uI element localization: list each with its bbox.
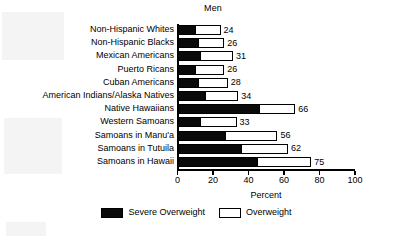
x-axis-tick-label: 80 xyxy=(305,175,335,186)
chart-legend: Severe OverweightOverweight xyxy=(0,207,393,218)
bar-value-label: 26 xyxy=(227,38,237,49)
x-axis-tick-label: 60 xyxy=(269,175,299,186)
bar-segment-severe-overweight xyxy=(178,104,260,114)
bar-value-label: 56 xyxy=(280,130,290,141)
category-label: Samoans in Tutuila xyxy=(97,143,174,154)
x-axis-tick xyxy=(248,171,249,175)
x-axis-tick xyxy=(354,171,355,175)
bar-segment-severe-overweight xyxy=(178,38,199,48)
bar-value-label: 33 xyxy=(240,117,250,128)
bar-row: Non-Hispanic Whites24 xyxy=(0,24,393,37)
bar-row: American Indians/Alaska Natives34 xyxy=(0,90,393,103)
category-label: Samoans in Hawaii xyxy=(97,156,174,167)
bar-value-label: 75 xyxy=(314,157,324,168)
bar-segment-severe-overweight xyxy=(178,131,226,141)
category-label: Samoans in Manu'a xyxy=(95,130,174,141)
category-label: Puerto Ricans xyxy=(117,64,174,75)
bar-row: Samoans in Hawaii75 xyxy=(0,156,393,169)
category-label: Native Hawaiians xyxy=(104,103,174,114)
x-axis-tick-label: 100 xyxy=(340,175,370,186)
category-label: Western Samoans xyxy=(100,116,174,127)
bar-segment-severe-overweight xyxy=(178,144,242,154)
legend-item: Overweight xyxy=(219,207,292,218)
bar-value-label: 66 xyxy=(298,104,308,115)
legend-item: Severe Overweight xyxy=(101,207,205,218)
x-axis-tick xyxy=(212,171,213,175)
bar-row: Puerto Ricans26 xyxy=(0,64,393,77)
x-axis-tick xyxy=(283,171,284,175)
category-label: Cuban Americans xyxy=(103,77,174,88)
bar-segment-severe-overweight xyxy=(178,91,206,101)
bar-row: Mexican Americans31 xyxy=(0,50,393,63)
legend-label: Overweight xyxy=(246,207,292,218)
legend-label: Severe Overweight xyxy=(128,207,205,218)
bar-value-label: 26 xyxy=(227,64,237,75)
bar-segment-severe-overweight xyxy=(178,25,196,35)
x-axis-tick-label: 40 xyxy=(234,175,264,186)
x-axis-tick-label: 0 xyxy=(163,175,193,186)
category-label: Non-Hispanic Whites xyxy=(90,24,174,35)
legend-swatch-filled xyxy=(101,208,123,218)
bar-row: Native Hawaiians66 xyxy=(0,103,393,116)
bar-value-label: 31 xyxy=(236,51,246,62)
bar-row: Western Samoans33 xyxy=(0,116,393,129)
x-axis-title: Percent xyxy=(177,190,355,201)
x-axis-tick xyxy=(177,171,178,175)
bar-value-label: 24 xyxy=(224,25,234,36)
x-axis-line xyxy=(177,169,355,171)
bar-segment-severe-overweight xyxy=(178,51,201,61)
x-axis-tick-label: 20 xyxy=(198,175,228,186)
bar-row: Samoans in Tutuila62 xyxy=(0,143,393,156)
chart-figure: Men 020406080100 Percent Severe Overweig… xyxy=(0,0,393,240)
bar-segment-severe-overweight xyxy=(178,157,258,167)
category-label: Non-Hispanic Blacks xyxy=(91,37,174,48)
bar-row: Cuban Americans28 xyxy=(0,77,393,90)
bar-value-label: 62 xyxy=(291,143,301,154)
legend-swatch-hollow xyxy=(219,208,241,218)
x-axis-tick xyxy=(319,171,320,175)
bar-row: Non-Hispanic Blacks26 xyxy=(0,37,393,50)
bar-segment-severe-overweight xyxy=(178,78,199,88)
category-label: Mexican Americans xyxy=(96,50,174,61)
bar-segment-severe-overweight xyxy=(178,65,196,75)
category-label: American Indians/Alaska Natives xyxy=(42,90,174,101)
bar-segment-severe-overweight xyxy=(178,117,201,127)
bar-value-label: 28 xyxy=(231,77,241,88)
bar-row: Samoans in Manu'a56 xyxy=(0,130,393,143)
bar-value-label: 34 xyxy=(241,91,251,102)
